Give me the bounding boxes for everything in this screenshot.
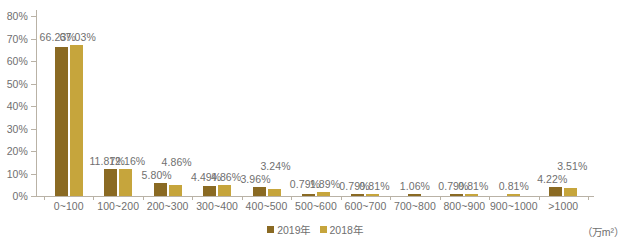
bar bbox=[55, 47, 68, 196]
y-tick bbox=[31, 129, 36, 130]
y-tick-label: 40% bbox=[7, 100, 28, 112]
bar-group bbox=[93, 10, 142, 196]
bar-chart: 0%10%20%30%40%50%60%70%80% 67.03%66.23%1… bbox=[0, 0, 630, 241]
bar-group bbox=[291, 10, 340, 196]
value-label: 3.96% bbox=[240, 173, 270, 185]
bar bbox=[302, 194, 315, 196]
y-tick-label: 80% bbox=[7, 10, 28, 22]
bar-group bbox=[440, 10, 489, 196]
bar-group bbox=[390, 10, 439, 196]
x-axis-label: 400~500 bbox=[246, 200, 288, 212]
x-axis-label: 700~800 bbox=[394, 200, 436, 212]
x-tick bbox=[440, 196, 441, 200]
value-label: 4.22% bbox=[537, 173, 567, 185]
bar bbox=[268, 189, 281, 196]
y-tick bbox=[31, 84, 36, 85]
bar bbox=[154, 183, 167, 196]
y-tick bbox=[31, 39, 36, 40]
y-tick-label: 70% bbox=[7, 33, 28, 45]
bar bbox=[465, 194, 478, 196]
legend-label: 2019年 bbox=[277, 222, 310, 237]
x-axis-label: 100~200 bbox=[97, 200, 139, 212]
y-tick-label: 60% bbox=[7, 55, 28, 67]
x-axis-label: 200~300 bbox=[147, 200, 189, 212]
value-label: 4.86% bbox=[161, 156, 191, 168]
bar bbox=[119, 169, 132, 196]
bar bbox=[450, 194, 463, 196]
y-tick-label: 50% bbox=[7, 78, 28, 90]
value-label: 0.81% bbox=[499, 180, 529, 192]
bar bbox=[317, 192, 330, 196]
x-axis-label: 300~400 bbox=[196, 200, 238, 212]
value-label: 0.79% bbox=[438, 180, 468, 192]
bar-group bbox=[489, 10, 538, 196]
y-tick bbox=[31, 61, 36, 62]
x-tick bbox=[44, 196, 45, 200]
y-tick bbox=[31, 16, 36, 17]
value-label: 4.49% bbox=[191, 171, 221, 183]
y-tick bbox=[31, 151, 36, 152]
bar bbox=[203, 186, 216, 196]
y-tick-label: 10% bbox=[7, 168, 28, 180]
bar bbox=[507, 194, 520, 196]
bar bbox=[253, 187, 266, 196]
bar bbox=[218, 185, 231, 196]
x-tick bbox=[539, 196, 540, 200]
bar bbox=[104, 169, 117, 196]
bar bbox=[351, 194, 364, 196]
legend-swatch-icon bbox=[267, 226, 274, 233]
bar bbox=[564, 188, 577, 196]
x-tick bbox=[192, 196, 193, 200]
x-axis-line bbox=[36, 196, 594, 197]
value-label: 3.24% bbox=[260, 160, 290, 172]
value-label: 0.79% bbox=[290, 178, 320, 190]
legend-item[interactable]: 2019年 bbox=[267, 222, 310, 237]
bar-group bbox=[192, 10, 241, 196]
value-label: 0.79% bbox=[339, 180, 369, 192]
y-tick-label: 0% bbox=[13, 190, 28, 202]
x-tick bbox=[588, 196, 589, 200]
bar bbox=[366, 194, 379, 196]
y-tick bbox=[31, 106, 36, 107]
x-tick bbox=[93, 196, 94, 200]
bar bbox=[408, 194, 421, 196]
x-axis-label: 600~700 bbox=[345, 200, 387, 212]
y-tick-label: 20% bbox=[7, 145, 28, 157]
x-axis-label: 900~1000 bbox=[490, 200, 538, 212]
x-tick bbox=[143, 196, 144, 200]
x-axis-label: 500~600 bbox=[295, 200, 337, 212]
value-label: 3.51% bbox=[557, 160, 587, 172]
value-label: 1.06% bbox=[400, 180, 430, 192]
bar bbox=[70, 45, 83, 196]
x-tick bbox=[390, 196, 391, 200]
x-tick bbox=[341, 196, 342, 200]
legend-label: 2018年 bbox=[330, 222, 363, 237]
chart-legend: 2019年2018年 bbox=[0, 222, 630, 237]
x-axis-label: 800~900 bbox=[443, 200, 485, 212]
y-tick bbox=[31, 174, 36, 175]
legend-item[interactable]: 2018年 bbox=[320, 222, 363, 237]
bar bbox=[169, 185, 182, 196]
bar-group bbox=[341, 10, 390, 196]
y-tick-label: 30% bbox=[7, 123, 28, 135]
bar bbox=[549, 187, 562, 196]
legend-swatch-icon bbox=[320, 226, 327, 233]
value-label: 5.80% bbox=[141, 169, 171, 181]
x-axis-label: >1000 bbox=[548, 200, 578, 212]
x-tick bbox=[291, 196, 292, 200]
axis-unit-label: （万m²） bbox=[582, 224, 624, 239]
y-tick bbox=[31, 196, 36, 197]
value-label: 11.87% bbox=[89, 155, 124, 167]
x-tick bbox=[242, 196, 243, 200]
x-axis-label: 0~100 bbox=[54, 200, 84, 212]
plot-area: 0%10%20%30%40%50%60%70%80% 67.03%66.23%1… bbox=[36, 10, 594, 197]
value-label: 66.23% bbox=[40, 31, 76, 43]
y-axis-line bbox=[36, 10, 37, 197]
